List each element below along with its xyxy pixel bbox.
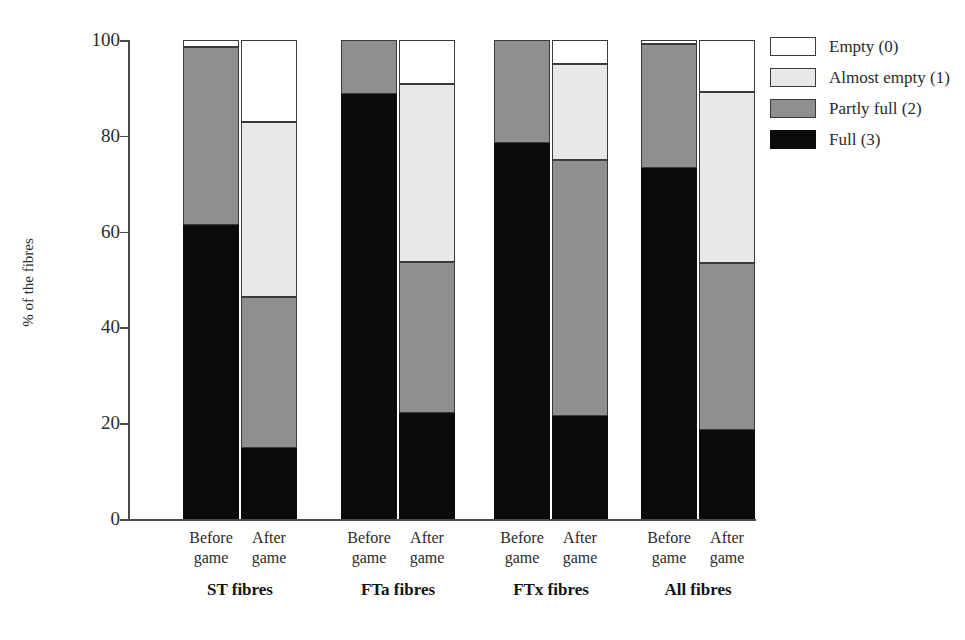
y-tick-label-60: 60	[60, 221, 120, 243]
legend-label: Almost empty (1)	[829, 68, 950, 88]
x-axis-line	[128, 519, 756, 521]
bar-segment-partly	[494, 40, 550, 143]
plot-area	[128, 40, 755, 519]
bar-segment-full	[552, 416, 608, 519]
bar-segment-empty	[183, 40, 239, 47]
legend-item[interactable]: Almost empty (1)	[770, 64, 950, 91]
bar-st-fibres-after[interactable]	[241, 40, 297, 519]
legend-swatch-empty	[770, 37, 816, 56]
legend-swatch-almost	[770, 68, 816, 87]
bar-segment-empty	[399, 40, 455, 84]
bar-segment-partly	[341, 40, 397, 94]
legend-item[interactable]: Full (3)	[770, 126, 950, 153]
x-bar-label-line1: After	[377, 528, 477, 548]
bar-st-fibres-before[interactable]	[183, 40, 239, 519]
bar-ftx-fibres-after[interactable]	[552, 40, 608, 519]
legend-label: Empty (0)	[829, 37, 898, 57]
legend-item[interactable]: Partly full (2)	[770, 95, 950, 122]
bar-segment-partly	[183, 47, 239, 225]
y-tick-mark-100	[120, 40, 128, 42]
bar-segment-empty	[241, 40, 297, 122]
bar-segment-almost	[699, 92, 755, 263]
bar-segment-empty	[699, 40, 755, 92]
legend-label: Partly full (2)	[829, 99, 922, 119]
bar-segment-full	[494, 143, 550, 519]
x-bar-label-line2: game	[677, 548, 777, 568]
bar-segment-partly	[699, 263, 755, 431]
stacked-bar-chart: % of the fibres 020406080100 BeforegameA…	[0, 0, 965, 640]
y-axis-title: % of the fibres	[20, 193, 37, 373]
bar-segment-partly	[241, 297, 297, 448]
y-tick-label-0: 0	[60, 508, 120, 530]
y-tick-mark-60	[120, 232, 128, 234]
bar-segment-empty	[552, 40, 608, 64]
legend-swatch-partly	[770, 99, 816, 118]
bar-segment-almost	[241, 122, 297, 297]
y-tick-label-40: 40	[60, 316, 120, 338]
bar-segment-full	[699, 430, 755, 519]
legend-item[interactable]: Empty (0)	[770, 33, 950, 60]
x-bar-label-line2: game	[377, 548, 477, 568]
x-bar-label-line2: game	[530, 548, 630, 568]
bar-ftx-fibres-before[interactable]	[494, 40, 550, 519]
bar-segment-partly	[552, 160, 608, 416]
bar-segment-full	[183, 225, 239, 519]
y-axis-ticks: 020406080100	[58, 40, 120, 519]
bar-segment-partly	[399, 262, 455, 413]
bar-segment-full	[641, 168, 697, 519]
bar-segment-full	[399, 413, 455, 519]
x-bar-label: Aftergame	[219, 528, 319, 568]
x-bar-label-line1: After	[530, 528, 630, 548]
y-tick-mark-40	[120, 327, 128, 329]
x-bar-label: Aftergame	[677, 528, 777, 568]
bar-fta-fibres-before[interactable]	[341, 40, 397, 519]
x-bar-label-line2: game	[219, 548, 319, 568]
x-bar-label: Aftergame	[530, 528, 630, 568]
x-bar-label-line1: After	[677, 528, 777, 548]
y-tick-label-100: 100	[60, 29, 120, 51]
bar-segment-almost	[552, 64, 608, 159]
bar-fta-fibres-after[interactable]	[399, 40, 455, 519]
y-tick-mark-0	[120, 519, 128, 521]
y-tick-label-80: 80	[60, 125, 120, 147]
y-tick-mark-20	[120, 423, 128, 425]
legend-swatch-full	[770, 130, 816, 149]
x-group-label-all-fibres: All fibres	[603, 580, 793, 600]
bar-segment-empty	[641, 40, 697, 44]
x-bar-label-line1: After	[219, 528, 319, 548]
bar-segment-partly	[641, 44, 697, 168]
bar-segment-full	[241, 448, 297, 519]
bar-all-fibres-after[interactable]	[699, 40, 755, 519]
bar-all-fibres-before[interactable]	[641, 40, 697, 519]
bar-segment-almost	[399, 84, 455, 262]
y-tick-label-20: 20	[60, 412, 120, 434]
chart-legend: Empty (0)Almost empty (1)Partly full (2)…	[770, 33, 950, 157]
x-bar-label: Aftergame	[377, 528, 477, 568]
y-tick-mark-80	[120, 136, 128, 138]
legend-label: Full (3)	[829, 130, 880, 150]
bar-segment-full	[341, 94, 397, 519]
